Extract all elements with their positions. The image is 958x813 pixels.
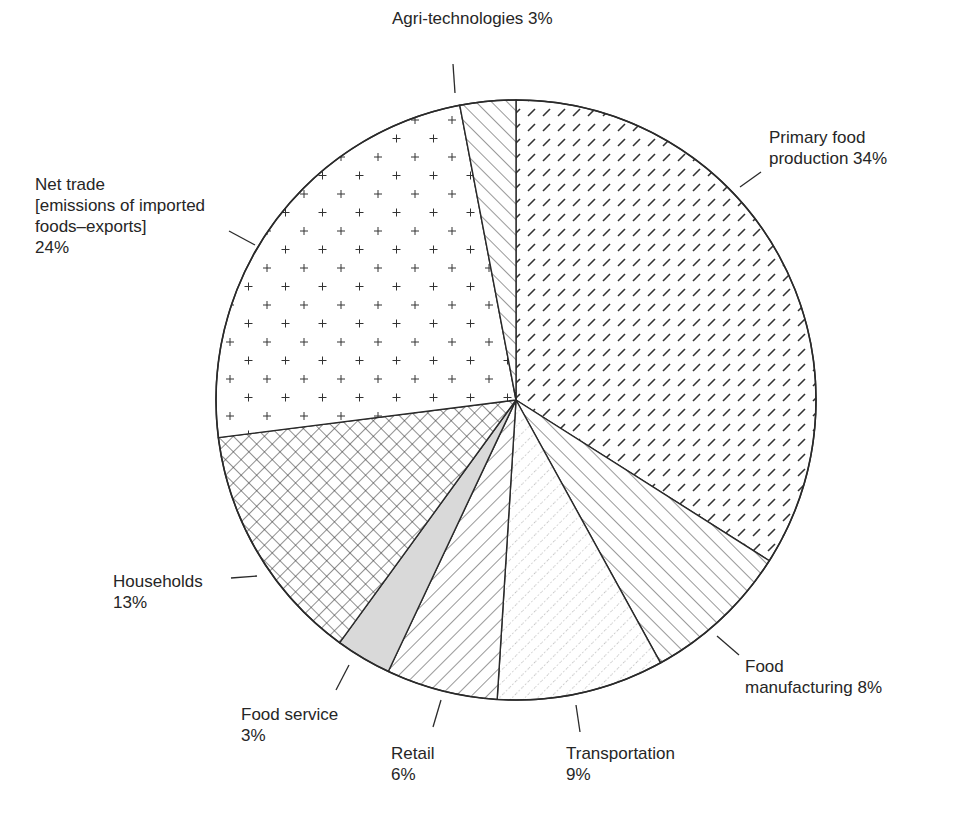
leader-line (336, 665, 349, 690)
label-primary-food-production: Primary food production 34% (769, 127, 887, 169)
leader-line (229, 231, 255, 245)
label-food-service: Food service 3% (241, 704, 338, 746)
leader-line (576, 705, 580, 732)
label-households: Households 13% (113, 571, 203, 613)
label-agri-technologies: Agri-technologies 3% (392, 8, 553, 29)
leader-line (740, 172, 761, 187)
pie-slices (216, 100, 816, 700)
label-retail: Retail 6% (391, 743, 434, 785)
label-transportation: Transportation 9% (566, 743, 675, 785)
leader-line (453, 64, 455, 93)
label-net-trade: Net trade [emissions of imported foods–e… (35, 174, 205, 258)
leader-line (231, 576, 257, 578)
leader-line (717, 636, 739, 655)
leader-line (433, 700, 441, 727)
label-food-manufacturing: Food manufacturing 8% (745, 656, 882, 698)
